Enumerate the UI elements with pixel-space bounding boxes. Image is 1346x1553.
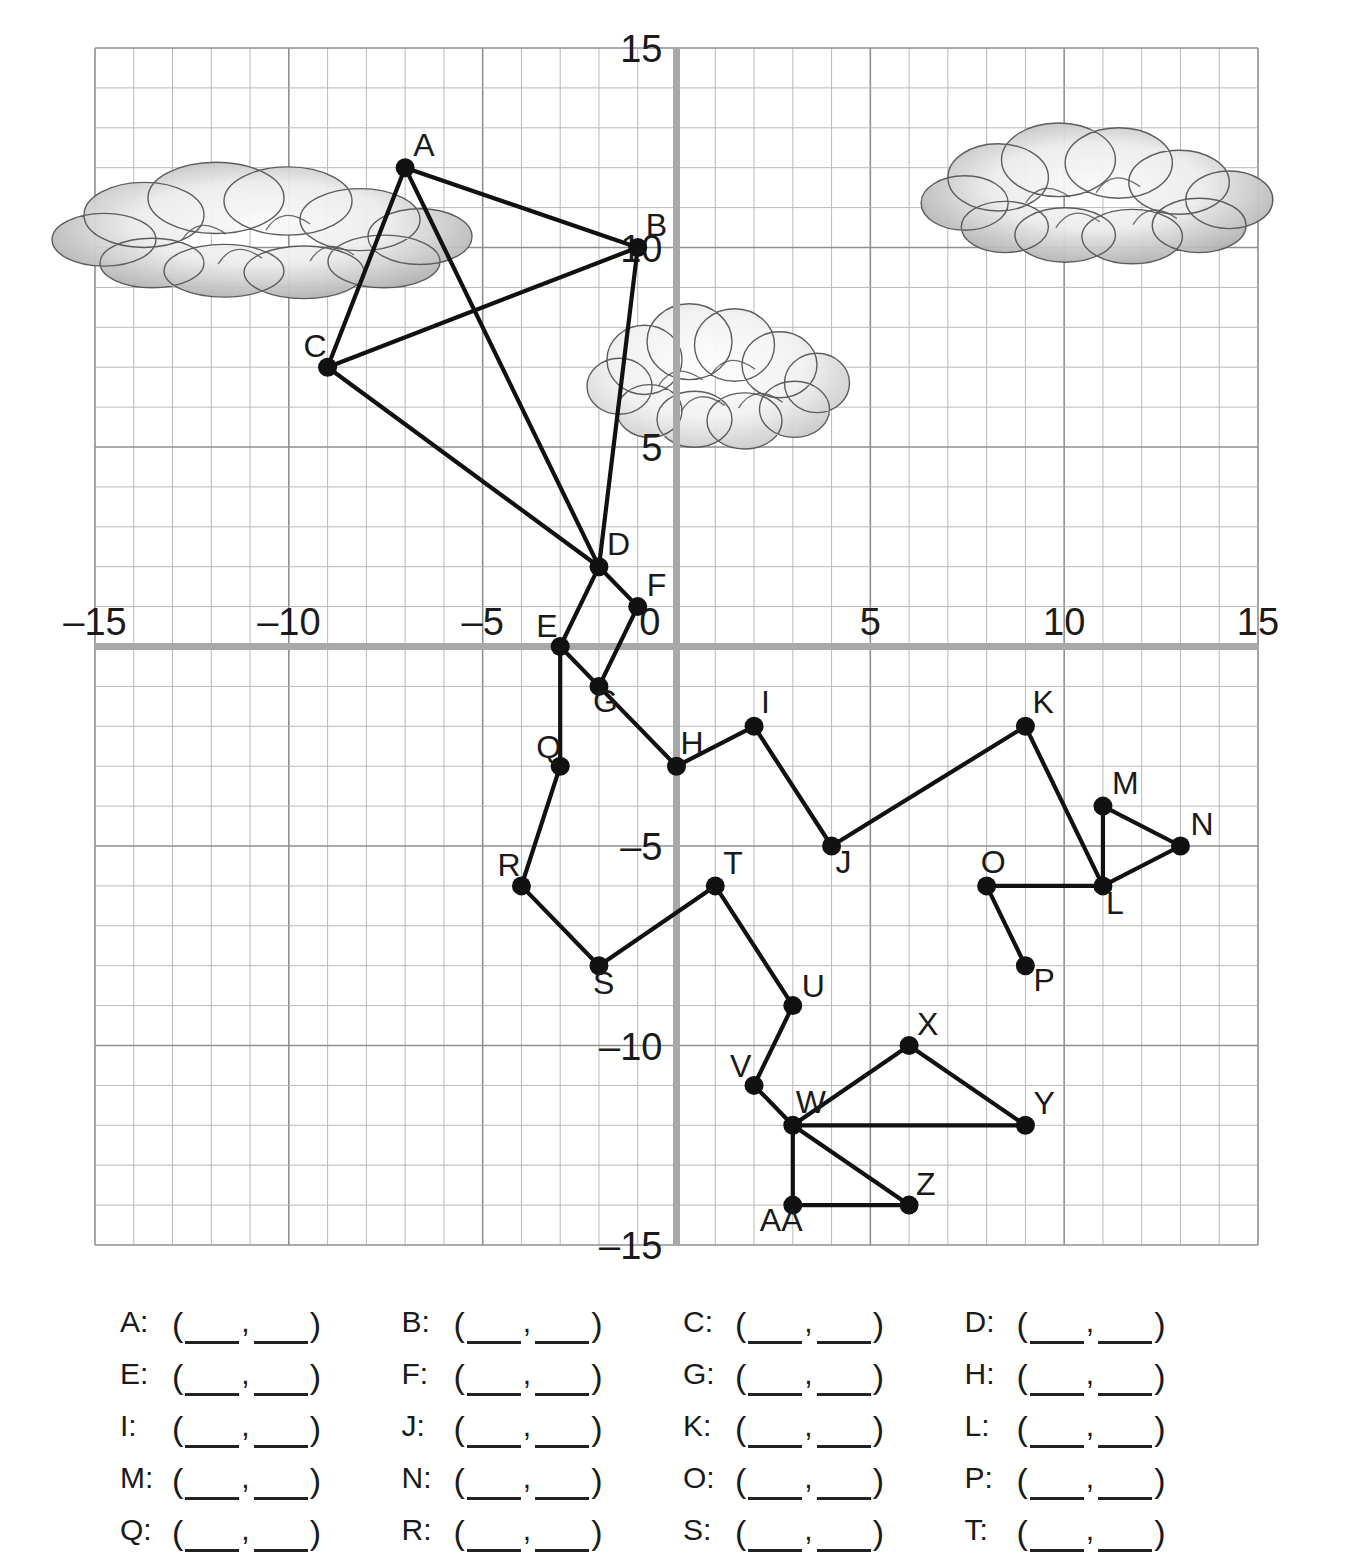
- y-coordinate-blank-F[interactable]: [535, 1367, 589, 1396]
- x-coordinate-blank-F[interactable]: [467, 1367, 521, 1396]
- close-paren: ): [591, 1512, 602, 1552]
- coordinate-plane-svg: –15–10–5051015–15–10–551015 ABCDEFGHIJKL…: [0, 0, 1346, 1280]
- open-paren: (: [172, 1408, 183, 1448]
- x-coordinate-blank-L[interactable]: [1030, 1419, 1084, 1448]
- x-coordinate-blank-M[interactable]: [185, 1471, 239, 1500]
- x-coordinate-blank-E[interactable]: [185, 1367, 239, 1396]
- y-coordinate-blank-T[interactable]: [1098, 1523, 1152, 1552]
- x-coordinate-blank-K[interactable]: [748, 1419, 802, 1448]
- y-coordinate-blank-J[interactable]: [535, 1419, 589, 1448]
- coordinate-comma: ,: [523, 1456, 531, 1500]
- open-paren: (: [1017, 1356, 1028, 1396]
- answer-entry-C: C:(,): [683, 1300, 965, 1344]
- y-coordinate-blank-A[interactable]: [254, 1315, 308, 1344]
- y-coordinate-blank-I[interactable]: [254, 1419, 308, 1448]
- x-coordinate-blank-G[interactable]: [748, 1367, 802, 1396]
- x-coordinate-blank-D[interactable]: [1030, 1315, 1084, 1344]
- coordinate-comma: ,: [523, 1352, 531, 1396]
- point-label-C: C: [304, 328, 327, 364]
- x-coordinate-blank-R[interactable]: [467, 1523, 521, 1552]
- coordinate-comma: ,: [1086, 1508, 1094, 1552]
- coordinate-comma: ,: [1086, 1456, 1094, 1500]
- close-paren: ): [873, 1512, 884, 1552]
- coordinate-comma: ,: [1086, 1352, 1094, 1396]
- x-coordinate-blank-P[interactable]: [1030, 1471, 1084, 1500]
- point-label-Q: Q: [536, 729, 561, 765]
- x-coordinate-blank-I[interactable]: [185, 1419, 239, 1448]
- open-paren: (: [454, 1356, 465, 1396]
- x-tick-label--15: –15: [63, 601, 126, 643]
- answer-point-label-N: N:: [402, 1456, 454, 1500]
- x-tick-label-15: 15: [1237, 601, 1279, 643]
- answer-blanks-section: A:(,)B:(,)C:(,)D:(,)E:(,)F:(,)G:(,)H:(,)…: [0, 1300, 1346, 1552]
- point-label-E: E: [536, 608, 557, 644]
- point-label-A: A: [413, 127, 435, 163]
- y-tick-label--5: –5: [620, 826, 662, 868]
- open-paren: (: [172, 1356, 183, 1396]
- point-label-R: R: [497, 847, 520, 883]
- x-coordinate-blank-H[interactable]: [1030, 1367, 1084, 1396]
- point-label-B: B: [646, 207, 667, 243]
- answer-point-label-M: M:: [120, 1456, 172, 1500]
- coordinate-comma: ,: [804, 1508, 812, 1552]
- answer-point-label-I: I:: [120, 1404, 172, 1448]
- y-coordinate-blank-E[interactable]: [254, 1367, 308, 1396]
- y-coordinate-blank-G[interactable]: [817, 1367, 871, 1396]
- answer-entry-J: J:(,): [402, 1404, 684, 1448]
- y-coordinate-blank-R[interactable]: [535, 1523, 589, 1552]
- x-coordinate-blank-Q[interactable]: [185, 1523, 239, 1552]
- x-coordinate-blank-N[interactable]: [467, 1471, 521, 1500]
- point-N: [1171, 837, 1190, 856]
- open-paren: (: [454, 1512, 465, 1552]
- cloud-decorations: [52, 123, 1273, 449]
- segment-Q-R: [521, 766, 560, 886]
- y-coordinate-blank-Q[interactable]: [254, 1523, 308, 1552]
- x-tick-label--5: –5: [462, 601, 504, 643]
- answer-point-label-Q: Q:: [120, 1508, 172, 1552]
- x-coordinate-blank-A[interactable]: [185, 1315, 239, 1344]
- x-coordinate-blank-J[interactable]: [467, 1419, 521, 1448]
- answer-entry-S: S:(,): [683, 1508, 965, 1552]
- x-coordinate-blank-B[interactable]: [467, 1315, 521, 1344]
- y-coordinate-blank-L[interactable]: [1098, 1419, 1152, 1448]
- answer-entry-L: L:(,): [965, 1404, 1247, 1448]
- open-paren: (: [1017, 1408, 1028, 1448]
- x-coordinate-blank-O[interactable]: [748, 1471, 802, 1500]
- point-label-N: N: [1190, 806, 1213, 842]
- y-coordinate-blank-B[interactable]: [535, 1315, 589, 1344]
- x-coordinate-blank-S[interactable]: [748, 1523, 802, 1552]
- point-P: [1016, 956, 1035, 975]
- x-coordinate-blank-C[interactable]: [748, 1315, 802, 1344]
- y-coordinate-blank-H[interactable]: [1098, 1367, 1152, 1396]
- point-label-F: F: [647, 567, 667, 603]
- point-label-W: W: [796, 1084, 827, 1120]
- point-label-J: J: [836, 844, 852, 880]
- coordinate-comma: ,: [523, 1300, 531, 1344]
- answer-point-label-P: P:: [965, 1456, 1017, 1500]
- open-paren: (: [172, 1304, 183, 1344]
- close-paren: ): [1154, 1356, 1165, 1396]
- y-coordinate-blank-D[interactable]: [1098, 1315, 1152, 1344]
- point-F: [628, 597, 647, 616]
- y-tick-label-5: 5: [641, 427, 662, 469]
- y-coordinate-blank-C[interactable]: [817, 1315, 871, 1344]
- x-coordinate-blank-T[interactable]: [1030, 1523, 1084, 1552]
- cloud-left-body: [52, 162, 472, 298]
- y-coordinate-blank-O[interactable]: [817, 1471, 871, 1500]
- coordinate-comma: ,: [804, 1456, 812, 1500]
- answer-entry-P: P:(,): [965, 1456, 1247, 1500]
- y-coordinate-blank-P[interactable]: [1098, 1471, 1152, 1500]
- point-T: [706, 876, 725, 895]
- y-coordinate-blank-M[interactable]: [254, 1471, 308, 1500]
- point-label-P: P: [1033, 962, 1054, 998]
- answer-point-label-D: D:: [965, 1300, 1017, 1344]
- y-coordinate-blank-S[interactable]: [817, 1523, 871, 1552]
- close-paren: ): [873, 1304, 884, 1344]
- point-label-O: O: [981, 844, 1006, 880]
- y-coordinate-blank-K[interactable]: [817, 1419, 871, 1448]
- open-paren: (: [1017, 1460, 1028, 1500]
- y-coordinate-blank-N[interactable]: [535, 1471, 589, 1500]
- answer-entry-H: H:(,): [965, 1352, 1247, 1396]
- point-label-H: H: [681, 725, 704, 761]
- point-label-X: X: [917, 1006, 938, 1042]
